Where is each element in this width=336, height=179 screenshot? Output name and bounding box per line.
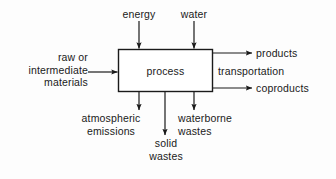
input-label-energy: energy [112, 8, 166, 21]
input-label-raw-intermediate-materials: raw or intermediate materials [10, 51, 88, 89]
input-label-water: water [168, 8, 220, 21]
output-label-waterborne-line2: wastes [178, 125, 250, 138]
input-label-raw-line1: raw or [10, 51, 88, 64]
output-label-coproducts: coproducts [256, 82, 309, 95]
output-label-products: products [256, 47, 297, 60]
output-label-atmospheric-line2: emissions [74, 125, 148, 138]
output-label-solid-line2: wastes [138, 150, 194, 163]
diagram-canvas: energy water raw or intermediate materia… [0, 0, 336, 179]
output-label-solid-line1: solid [138, 137, 194, 150]
output-label-solid-wastes: solid wastes [138, 137, 194, 162]
process-box-label: process [118, 65, 213, 78]
output-label-waterborne-line1: waterborne [178, 112, 250, 125]
output-label-transportation: transportation [218, 65, 284, 78]
input-label-raw-line2: intermediate [10, 64, 88, 77]
output-label-atmospheric-line1: atmospheric [74, 112, 148, 125]
output-label-waterborne-wastes: waterborne wastes [178, 112, 250, 137]
output-label-atmospheric-emissions: atmospheric emissions [74, 112, 148, 137]
input-label-raw-line3: materials [10, 76, 88, 89]
